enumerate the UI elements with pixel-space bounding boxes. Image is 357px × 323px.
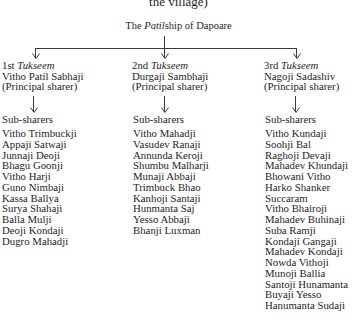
principal-role: (Principal sharer) bbox=[264, 81, 339, 92]
principal-role: (Principal sharer) bbox=[132, 81, 208, 92]
list-item: Vasudev Ranaji bbox=[133, 139, 209, 150]
caption-fragment: the village) bbox=[0, 0, 357, 9]
root-stem-line bbox=[164, 36, 165, 48]
sub-sharers-column-2: Sub-sharers Vitho Mahadji Vasudev Ranaji… bbox=[133, 114, 184, 128]
list-item: Deoji Kondaji bbox=[2, 225, 77, 236]
list-item: Trimbuck Bhao bbox=[133, 182, 209, 193]
list-item: Harko Shanker bbox=[265, 182, 348, 193]
list-item: Dugro Mahadji bbox=[2, 236, 77, 247]
sub-sharers-list: Vitho Mahadji Vasudev Ranaji Annunda Ker… bbox=[133, 128, 209, 236]
principal-role: (Principal sharer) bbox=[2, 81, 84, 92]
sub-sharers-column-1: Sub-sharers Vitho Trimbuckji Appaji Satw… bbox=[2, 114, 53, 128]
branch-horizontal-line bbox=[35, 48, 297, 49]
sub-sharers-column-3: Sub-sharers Vitho Kundaji Soohji Bal Rag… bbox=[265, 114, 316, 128]
tukseem-column-3: 3rd Tukseem Nagoji Sadashiv (Principal s… bbox=[264, 60, 339, 92]
diagram-root-title: The Patilship of Dapoare bbox=[0, 20, 357, 32]
root-italic: Patil bbox=[144, 20, 164, 31]
sub-sharers-label: Sub-sharers bbox=[133, 114, 184, 128]
list-item: Suba Ramji bbox=[265, 225, 348, 236]
list-item: Guno Nimbaji bbox=[2, 182, 77, 193]
list-item: Appaji Satwaji bbox=[2, 139, 77, 150]
sub-sharers-list: Vitho Trimbuckji Appaji Satwaji Junnaji … bbox=[2, 128, 77, 246]
tukseem-column-2: 2nd Tukseem Durgaji Sambhaji (Principal … bbox=[132, 60, 208, 92]
sub-sharers-list: Vitho Kundaji Soohji Bal Raghoji Devaji … bbox=[265, 128, 348, 311]
list-item: Hanumanta Sudaji bbox=[265, 300, 348, 311]
list-item: Bhanji Luxman bbox=[133, 225, 209, 236]
sub-sharers-label: Sub-sharers bbox=[2, 114, 53, 128]
list-item: Munoji Ballia bbox=[265, 268, 348, 279]
root-suffix: ship of Dapoare bbox=[165, 20, 232, 31]
list-item: Soohji Bal bbox=[265, 139, 348, 150]
sub-sharers-label: Sub-sharers bbox=[265, 114, 316, 128]
root-prefix: The bbox=[125, 20, 144, 31]
tukseem-column-1: 1st Tukseem Vitho Patil Sabhaji (Princip… bbox=[2, 60, 84, 92]
